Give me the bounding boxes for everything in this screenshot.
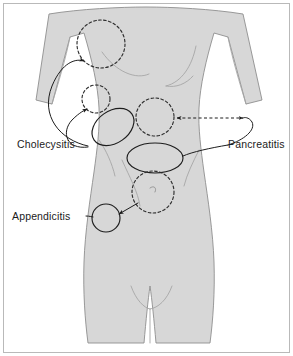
label-pancreatitis[interactable]: Pancreatitis <box>228 138 285 150</box>
abdominal-pain-diagram: Cholecysitis Pancreatitis Appendicitis <box>0 0 293 356</box>
label-cholecysitis[interactable]: Cholecysitis <box>17 138 75 150</box>
label-appendicitis[interactable]: Appendicitis <box>12 210 70 222</box>
figure-container: Cholecysitis Pancreatitis Appendicitis <box>0 0 293 356</box>
